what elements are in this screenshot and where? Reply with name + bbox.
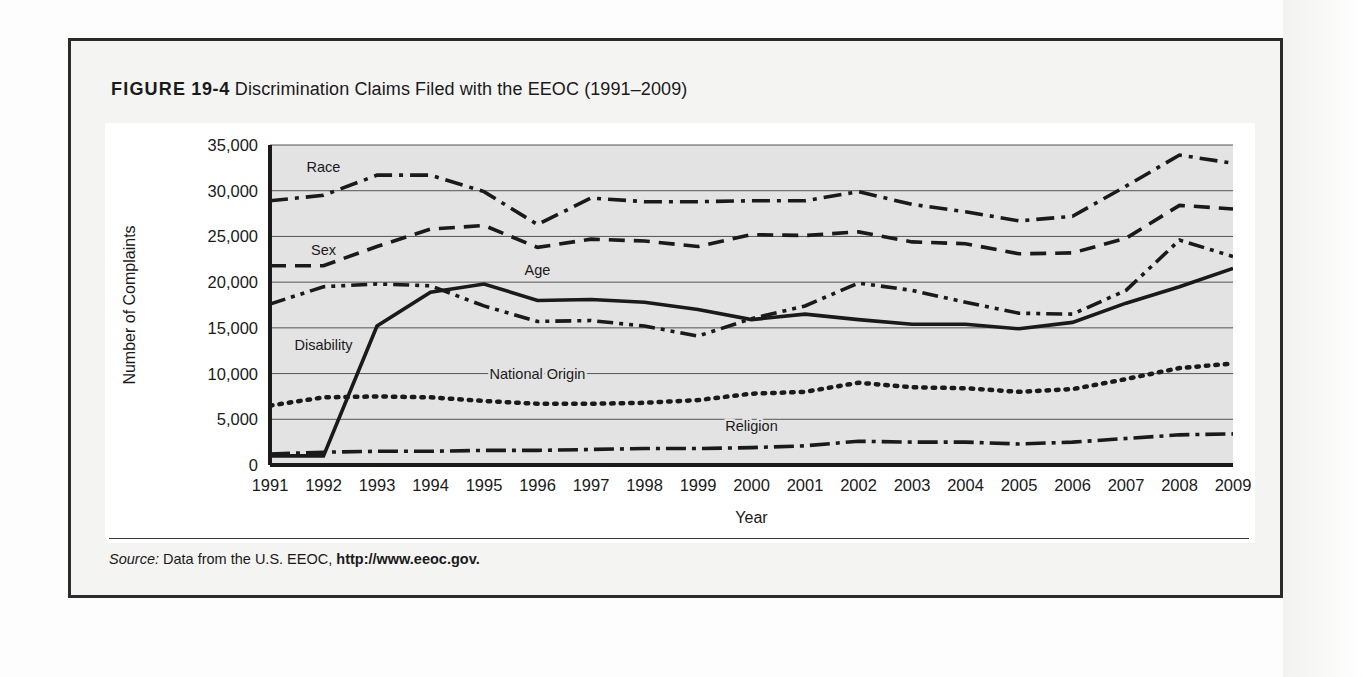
series-label-disability: Disability xyxy=(294,337,353,353)
x-axis-tick-label: 2008 xyxy=(1161,476,1198,494)
x-axis-tick-label: 1992 xyxy=(305,476,342,494)
x-axis-tick-label: 2001 xyxy=(787,476,824,494)
source-url[interactable]: http://www.eeoc.gov. xyxy=(336,551,479,567)
figure-title-text: Discrimination Claims Filed with the EEO… xyxy=(235,79,687,99)
series-label-sex: Sex xyxy=(311,242,337,258)
series-label-national-origin: National Origin xyxy=(490,366,586,382)
source-prefix: Source: xyxy=(109,551,159,567)
series-label-race: Race xyxy=(307,159,341,175)
series-label-age: Age xyxy=(525,262,551,278)
x-axis-tick-label: 2003 xyxy=(894,476,931,494)
y-axis-tick-label: 30,000 xyxy=(208,182,258,200)
x-axis-tick-label: 1993 xyxy=(359,476,396,494)
x-axis-tick-label: 2009 xyxy=(1215,476,1252,494)
y-axis-title: Number of Complaints xyxy=(121,225,138,384)
source-divider xyxy=(109,538,1249,539)
y-axis-tick-label: 35,000 xyxy=(208,136,258,154)
x-axis-tick-label: 1991 xyxy=(252,476,289,494)
source-text: Data from the U.S. EEOC, xyxy=(163,551,332,567)
x-axis-title: Year xyxy=(735,509,768,526)
series-label-religion: Religion xyxy=(725,418,777,434)
chart-canvas: 05,00010,00015,00020,00025,00030,00035,0… xyxy=(105,123,1255,543)
x-axis-tick-label: 2005 xyxy=(1001,476,1038,494)
line-chart: 05,00010,00015,00020,00025,00030,00035,0… xyxy=(105,123,1255,543)
y-axis-tick-label: 20,000 xyxy=(208,273,258,291)
y-axis-tick-label: 15,000 xyxy=(208,319,258,337)
x-axis-tick-label: 1995 xyxy=(466,476,503,494)
figure-label: FIGURE xyxy=(111,79,186,99)
x-axis-tick-label: 1997 xyxy=(573,476,610,494)
figure-frame: FIGURE 19-4 Discrimination Claims Filed … xyxy=(68,38,1283,598)
x-axis-tick-label: 1994 xyxy=(412,476,449,494)
x-axis-tick-label: 1998 xyxy=(626,476,663,494)
x-axis-tick-label: 1999 xyxy=(680,476,717,494)
scan-edge-shading xyxy=(1283,0,1363,677)
x-axis-tick-label: 1996 xyxy=(519,476,556,494)
x-axis-tick-label: 2000 xyxy=(733,476,770,494)
plot-area: 05,00010,00015,00020,00025,00030,00035,0… xyxy=(105,123,1255,543)
source-note: Source: Data from the U.S. EEOC, http://… xyxy=(109,551,480,567)
y-axis-tick-label: 25,000 xyxy=(208,227,258,245)
x-axis-tick-label: 2004 xyxy=(947,476,984,494)
y-axis-tick-label: 0 xyxy=(249,456,258,474)
x-axis-tick-label: 2006 xyxy=(1054,476,1091,494)
plot-background xyxy=(270,145,1233,465)
x-axis-tick-label: 2007 xyxy=(1108,476,1145,494)
y-axis-tick-label: 5,000 xyxy=(217,410,258,428)
figure-title: FIGURE 19-4 Discrimination Claims Filed … xyxy=(111,79,687,100)
figure-number: 19-4 xyxy=(191,79,229,99)
x-axis-tick-label: 2002 xyxy=(840,476,877,494)
y-axis-tick-label: 10,000 xyxy=(208,365,258,383)
